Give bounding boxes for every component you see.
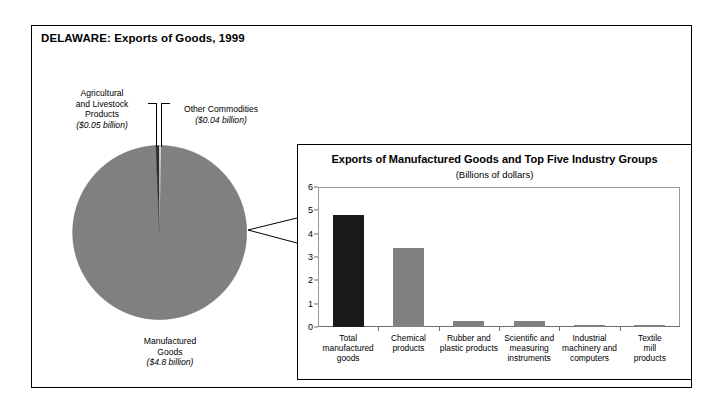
pie-label-other-commodities: Other Commodities ($0.04 billion) xyxy=(166,104,276,125)
pie-label-agricultural-line3: Products xyxy=(56,109,148,120)
panel-subtitle: (Billions of dollars) xyxy=(298,169,691,180)
pie-label-manufactured-line1: Manufactured xyxy=(105,336,235,347)
x-axis-tick-mark xyxy=(620,327,621,331)
pie-label-agricultural-line2: and Livestock xyxy=(56,99,148,110)
x-axis-category-label-line: manufactured xyxy=(323,343,374,353)
x-axis-category-label-line: Industrial xyxy=(562,333,617,343)
pie-label-manufactured: Manufactured Goods ($4.8 billion) xyxy=(105,336,235,368)
x-axis-category-label-line: instruments xyxy=(504,353,554,363)
y-axis-tick-label: 0 xyxy=(308,322,313,332)
pie-label-agricultural-value: ($0.05 billion) xyxy=(56,120,148,131)
pie-chart-svg xyxy=(72,145,247,320)
x-axis-tick-mark xyxy=(559,327,560,331)
y-axis-tick-label: 3 xyxy=(308,252,313,262)
bar-5 xyxy=(574,325,605,327)
pie-label-other-commodities-value: ($0.04 billion) xyxy=(166,115,276,126)
x-axis-tick-mark xyxy=(378,327,379,331)
bar-3 xyxy=(453,321,484,327)
x-axis-category-label: Chemicalproducts xyxy=(391,333,426,353)
pie-label-manufactured-value: ($4.8 billion) xyxy=(105,357,235,368)
x-axis-category-label-line: measuring xyxy=(504,343,554,353)
x-axis-category-label-line: machinery and xyxy=(562,343,617,353)
x-axis-category-label-line: Scientific and xyxy=(504,333,554,343)
x-axis-category-label-line: Chemical xyxy=(391,333,426,343)
y-axis-tick-label: 6 xyxy=(308,182,313,192)
figure-title: DELAWARE: Exports of Goods, 1999 xyxy=(41,32,245,44)
x-axis-category-label: Totalmanufacturedgoods xyxy=(323,333,374,364)
pie-label-agricultural: Agricultural and Livestock Products ($0.… xyxy=(56,88,148,130)
bar-1 xyxy=(333,215,364,327)
pie-label-agricultural-line1: Agricultural xyxy=(56,88,148,99)
x-axis-category-label: Textile millproducts xyxy=(634,333,666,364)
y-axis-tick-label: 1 xyxy=(308,299,313,309)
x-axis-category-label: Scientific andmeasuringinstruments xyxy=(504,333,554,364)
bar-series: TotalmanufacturedgoodsChemicalproductsRu… xyxy=(318,187,680,327)
y-axis-tick-label: 4 xyxy=(308,229,313,239)
leader-line-agricultural-vertical xyxy=(156,103,157,147)
x-axis-category-label: Industrialmachinery andcomputers xyxy=(562,333,617,364)
x-axis-category-label-line: plastic products xyxy=(440,343,498,353)
inset-bar-panel: Exports of Manufactured Goods and Top Fi… xyxy=(297,144,692,380)
pie-label-manufactured-line2: Goods xyxy=(105,347,235,358)
bar-2 xyxy=(393,248,424,327)
x-axis-category-label-line: computers xyxy=(562,353,617,363)
x-axis-category-label-line: products xyxy=(391,343,426,353)
x-axis-tick-mark xyxy=(439,327,440,331)
x-axis-category-label: Rubber andplastic products xyxy=(440,333,498,353)
figure-canvas: DELAWARE: Exports of Goods, 1999 Agricul… xyxy=(0,0,725,419)
pie-label-other-commodities-line1: Other Commodities xyxy=(166,104,276,115)
x-axis-category-label-line: Total xyxy=(323,333,374,343)
x-axis-category-label-line: Rubber and xyxy=(440,333,498,343)
y-axis-tick-label: 5 xyxy=(308,205,313,215)
pie-chart xyxy=(72,145,247,320)
bar-4 xyxy=(514,321,545,327)
bar-6 xyxy=(634,325,665,327)
x-axis-category-label-line: products xyxy=(634,353,666,363)
x-axis-category-label-line: goods xyxy=(323,353,374,363)
x-axis-tick-mark xyxy=(499,327,500,331)
x-axis-category-label-line: Textile mill xyxy=(634,333,666,353)
y-axis-tick-label: 2 xyxy=(308,275,313,285)
leader-line-other-vertical xyxy=(161,103,162,147)
panel-title: Exports of Manufactured Goods and Top Fi… xyxy=(298,153,691,165)
bar-plot-area: 0123456 TotalmanufacturedgoodsChemicalpr… xyxy=(318,187,680,327)
